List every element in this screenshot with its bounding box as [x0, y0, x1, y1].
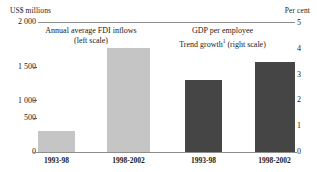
- right-tick-3: 3: [297, 70, 317, 79]
- right-tick-2: 2: [297, 95, 317, 104]
- left-tick-0: 0: [0, 147, 36, 156]
- legend-left-line1: Annual average FDI inflows: [26, 26, 156, 36]
- left-tick-mark-1500: [33, 67, 37, 68]
- x-label-fdi-1993-98: 1993-98: [30, 156, 83, 165]
- bar-gdp-1993-98: [185, 80, 222, 152]
- legend-right-series: GDP per employee Trend growth1 (right sc…: [160, 26, 285, 50]
- legend-right-scale-note: (right scale): [225, 40, 265, 49]
- legend-left-series: Annual average FDI inflows (left scale): [26, 26, 156, 46]
- legend-right-line2-text: Trend growth: [179, 40, 222, 49]
- right-tick-1: 1: [297, 121, 317, 130]
- right-tick-5: 5: [297, 18, 317, 27]
- left-tick-1000: 1 000: [0, 96, 36, 105]
- x-label-gdp-1993-98: 1993-98: [177, 156, 230, 165]
- legend-left-line2: (left scale): [26, 36, 156, 46]
- left-tick-mark-500: [33, 118, 37, 119]
- chart-container: US$ millions Per cent 2 000 1 500 1 000 …: [0, 0, 317, 172]
- right-tick-0: 0: [297, 147, 317, 156]
- left-tick-mark-1000: [33, 100, 37, 101]
- x-label-fdi-1998-2002: 1998-2002: [98, 156, 159, 165]
- left-tick-500: 500: [0, 113, 36, 122]
- baseline-axis: [33, 152, 297, 153]
- legend-right-line2: Trend growth1 (right scale): [160, 36, 285, 50]
- bar-fdi-1998-2002: [107, 48, 150, 152]
- top-axis-rule: [38, 22, 295, 23]
- right-tick-4: 4: [297, 44, 317, 53]
- right-axis: 5 4 3 2 1 0: [297, 0, 317, 172]
- x-label-gdp-1998-2002: 1998-2002: [244, 156, 305, 165]
- left-tick-2000: 2 000: [0, 17, 36, 26]
- bar-gdp-1998-2002: [255, 62, 295, 152]
- left-tick-1500: 1 500: [0, 62, 36, 71]
- bar-fdi-1993-98: [38, 131, 75, 152]
- legend-right-line1: GDP per employee: [160, 26, 285, 36]
